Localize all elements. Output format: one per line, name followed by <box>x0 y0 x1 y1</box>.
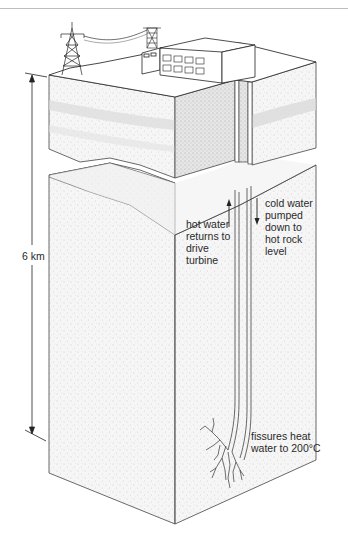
electricity-pylon <box>61 22 84 75</box>
lattice-tower <box>143 28 161 48</box>
cold-water-label: cold water pumped down to hot rock level <box>265 197 313 257</box>
fissures-label: fissures heat water to 200°C <box>251 430 321 454</box>
geothermal-diagram <box>0 0 348 555</box>
transmission-line <box>84 30 147 40</box>
hot-water-label: hot water returns to drive turbine <box>186 218 230 266</box>
depth-label: 6 km <box>22 250 45 262</box>
